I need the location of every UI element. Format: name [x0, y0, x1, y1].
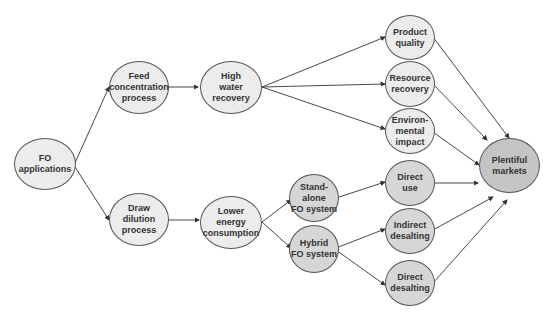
node-standalone-fo: Stand-alone FO system	[289, 174, 339, 222]
node-resource-recovery: Resource recovery	[385, 61, 435, 107]
node-direct-desalting: Direct desalting	[385, 260, 435, 306]
node-hybrid-fo: Hybrid FO system	[289, 225, 339, 273]
node-fo-applications: FO applications	[14, 138, 76, 190]
connector-arrows	[0, 0, 553, 313]
node-high-water-recovery: High water recovery	[200, 61, 262, 114]
node-direct-use: Direct use	[385, 160, 435, 206]
node-indirect-desalting: Indirect desalting	[385, 208, 435, 254]
node-feed-concentration: Feed concentration process	[109, 61, 169, 114]
node-draw-dilution: Draw dilution process	[109, 193, 169, 246]
node-plentiful-markets: Plentiful markets	[479, 138, 540, 193]
node-product-quality: Product quality	[385, 15, 435, 60]
node-lower-energy: Lower energy consumption	[200, 196, 262, 249]
node-environmental-impact: Environ- mental impact	[385, 108, 435, 154]
